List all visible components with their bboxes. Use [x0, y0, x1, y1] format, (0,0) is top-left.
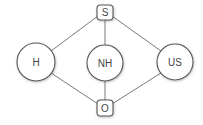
edge-h-o: [51, 73, 98, 104]
node-us: US: [157, 44, 193, 80]
node-us-label: US: [168, 57, 182, 68]
edge-s-h: [51, 16, 98, 51]
graph-diagram: S H NH US O: [0, 0, 203, 125]
node-s: S: [97, 5, 113, 20]
node-nh-label: NH: [98, 58, 112, 69]
edge-us-o: [112, 73, 161, 104]
node-h-label: H: [32, 57, 39, 68]
node-s-label: S: [102, 7, 109, 18]
node-o-label: O: [101, 103, 109, 114]
edge-s-us: [112, 16, 161, 51]
node-h: H: [17, 43, 55, 81]
node-nh: NH: [87, 45, 123, 81]
node-o: O: [97, 100, 113, 116]
